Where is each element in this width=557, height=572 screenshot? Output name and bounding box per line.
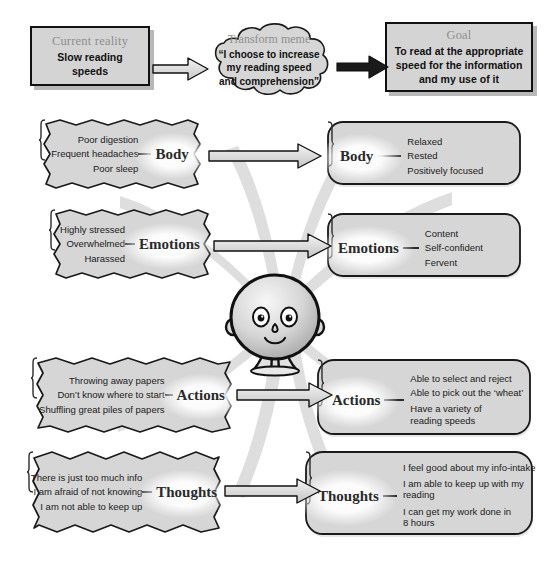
bracket-icon (30, 356, 39, 400)
arrow-meme-to-goal (336, 54, 390, 80)
transform-meme-text: “I choose to increase my reading speed a… (217, 48, 321, 89)
body-before-items: Poor digestion Frequent headaches Poor s… (51, 132, 138, 176)
arrow-thoughts (224, 478, 322, 504)
list-item: Don’t know where to start (39, 388, 165, 403)
before-panel-body: Poor digestion Frequent headaches Poor s… (38, 118, 206, 190)
bracket-icon (26, 450, 35, 494)
after-panel-emotions: Emotions Content Self-confident Fervent (326, 212, 528, 284)
list-item: Fervent (425, 255, 483, 270)
list-item: I can get my work done in 8 hours (403, 503, 536, 531)
list-item: Shuffling great piles of papers (39, 402, 165, 417)
current-reality-box: Current reality Slow reading speeds (30, 26, 150, 86)
cluster-emotions-after: Emotions Content Self-confident Fervent (334, 226, 483, 270)
list-item: Able to select and reject (410, 371, 523, 386)
arrow-actions (236, 382, 334, 408)
thoughts-after-items: I feel good about my info-intake I am ab… (397, 461, 536, 532)
list-item: Throwing away papers (39, 373, 165, 388)
arrow-emotions (213, 233, 333, 259)
list-item: There is just too much info (31, 470, 142, 485)
transform-meme-caption: Transform meme (228, 32, 311, 47)
central-character (213, 272, 343, 377)
arrow-body (208, 143, 323, 169)
emotions-before-items: Highly stressed Overwhelmed Harassed (60, 222, 125, 266)
current-reality-caption: Current reality (52, 34, 128, 49)
emotions-after-items: Content Self-confident Fervent (419, 226, 483, 270)
list-item: Highly stressed (60, 222, 125, 237)
category-label-thoughts-before: Thoughts (152, 484, 221, 501)
list-item: Rested (407, 149, 483, 164)
list-item: I am able to keep up with my reading (403, 475, 536, 503)
before-panel-actions: Throwing away papers Don’t know where to… (30, 356, 238, 434)
cluster-actions-after: Actions Able to select and reject Able t… (328, 371, 523, 428)
before-panel-thoughts: There is just too much info I am afraid … (26, 450, 226, 534)
cluster-emotions-before: Highly stressed Overwhelmed Harassed Emo… (60, 222, 204, 266)
list-item: I am not able to keep up (31, 499, 142, 514)
before-panel-emotions: Highly stressed Overwhelmed Harassed Emo… (48, 208, 216, 280)
list-item: I am afraid of not knowing (31, 485, 142, 500)
diagram-canvas: Current reality Slow reading speeds Tran… (0, 0, 557, 572)
list-item: Have a variety of reading speeds (410, 400, 523, 428)
list-item: Self-confident (425, 241, 483, 256)
cluster-actions-before: Throwing away papers Don’t know where to… (39, 373, 229, 417)
list-item: Overwhelmed (60, 237, 125, 252)
cluster-body-before: Poor digestion Frequent headaches Poor s… (51, 132, 193, 176)
transform-meme-cloud: Transform meme “I choose to increase my … (205, 20, 333, 100)
category-label-actions-after: Actions (328, 392, 384, 409)
category-label-emotions-before: Emotions (135, 236, 204, 253)
cluster-thoughts-before: There is just too much info I am afraid … (31, 470, 221, 514)
category-label-body-before: Body (151, 146, 192, 163)
list-item: I feel good about my info-intake (403, 461, 536, 476)
list-item: Content (425, 226, 483, 241)
list-item: Harassed (60, 251, 125, 266)
list-item: Relaxed (407, 134, 483, 149)
bracket-icon (48, 208, 57, 252)
cluster-body-after: Body Relaxed Rested Positively focused (336, 134, 483, 178)
after-panel-thoughts: Thoughts I feel good about my info-intak… (304, 450, 540, 542)
after-panel-body: Body Relaxed Rested Positively focused (326, 120, 528, 192)
actions-after-items: Able to select and reject Able to pick o… (404, 371, 523, 428)
list-item: Poor sleep (51, 161, 138, 176)
arrow-reality-to-meme (152, 56, 210, 82)
goal-box: Goal To read at the appropriate speed fo… (385, 22, 533, 92)
category-label-actions-before: Actions (173, 387, 229, 404)
body-after-items: Relaxed Rested Positively focused (401, 134, 483, 178)
category-label-body-after: Body (336, 148, 377, 165)
thoughts-before-items: There is just too much info I am afraid … (31, 470, 142, 514)
after-panel-actions: Actions Able to select and reject Able t… (316, 358, 538, 442)
list-item: Positively focused (407, 163, 483, 178)
goal-caption: Goal (446, 28, 471, 43)
current-reality-text: Slow reading speeds (32, 50, 148, 78)
bracket-icon (326, 120, 335, 168)
category-label-emotions-after: Emotions (334, 240, 403, 257)
list-item: Able to pick out the ‘wheat’ (410, 386, 523, 401)
category-label-thoughts-after: Thoughts (314, 488, 383, 505)
bracket-icon (38, 118, 47, 162)
list-item: Frequent headaches (51, 147, 138, 162)
goal-text: To read at the appropriate speed for the… (387, 44, 531, 86)
actions-before-items: Throwing away papers Don’t know where to… (39, 373, 165, 417)
list-item: Poor digestion (51, 132, 138, 147)
cluster-thoughts-after: Thoughts I feel good about my info-intak… (314, 461, 535, 532)
